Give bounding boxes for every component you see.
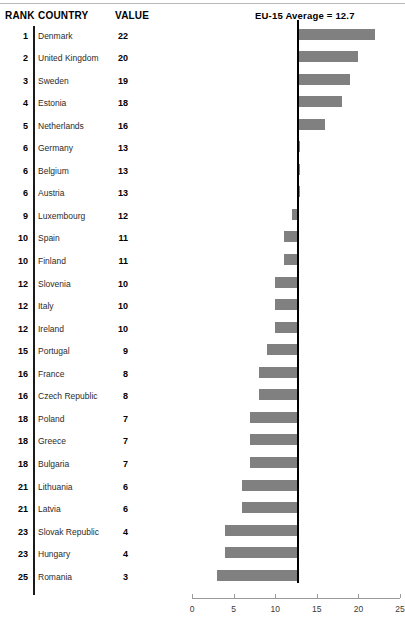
row-rank: 16 bbox=[0, 391, 28, 401]
x-axis-tick bbox=[358, 594, 359, 598]
x-axis-tick bbox=[317, 594, 318, 598]
row-country: Germany bbox=[38, 143, 73, 153]
row-country: France bbox=[38, 369, 64, 379]
row-value: 4 bbox=[112, 527, 128, 537]
table-row: 18Poland7 bbox=[0, 411, 180, 433]
row-value: 7 bbox=[112, 436, 128, 446]
x-axis-tick-label: 0 bbox=[180, 604, 204, 614]
column-header-rank: RANK bbox=[5, 10, 35, 21]
x-axis-tick bbox=[275, 594, 276, 598]
x-axis-tick-label: 25 bbox=[388, 604, 405, 614]
row-country: United Kingdom bbox=[38, 53, 98, 63]
table-row: 2United Kingdom20 bbox=[0, 50, 180, 72]
row-value: 10 bbox=[112, 324, 128, 334]
row-rank: 10 bbox=[0, 233, 28, 243]
row-rank: 5 bbox=[0, 121, 28, 131]
row-rank: 25 bbox=[0, 572, 28, 582]
row-value: 7 bbox=[112, 459, 128, 469]
row-country: Lithuania bbox=[38, 482, 73, 492]
row-value: 22 bbox=[112, 31, 128, 41]
chart-bar bbox=[275, 299, 297, 310]
row-rank: 10 bbox=[0, 256, 28, 266]
row-country: Poland bbox=[38, 414, 64, 424]
row-rank: 21 bbox=[0, 504, 28, 514]
table-row: 6Austria13 bbox=[0, 185, 180, 207]
chart-bar bbox=[250, 434, 297, 445]
table-row: 12Italy10 bbox=[0, 298, 180, 320]
row-value: 8 bbox=[112, 391, 128, 401]
row-rank: 16 bbox=[0, 369, 28, 379]
row-rank: 6 bbox=[0, 143, 28, 153]
row-country: Ireland bbox=[38, 324, 64, 334]
row-country: Bulgaria bbox=[38, 459, 69, 469]
chart-bar bbox=[298, 119, 325, 130]
chart-bar bbox=[267, 344, 298, 355]
chart-bar bbox=[250, 412, 297, 423]
row-country: Czech Republic bbox=[38, 391, 98, 401]
table-row: 16Czech Republic8 bbox=[0, 388, 180, 410]
chart-bar bbox=[284, 254, 298, 265]
row-country: Denmark bbox=[38, 31, 72, 41]
chart-bar bbox=[298, 29, 375, 40]
row-rank: 12 bbox=[0, 324, 28, 334]
row-country: Spain bbox=[38, 233, 60, 243]
row-value: 12 bbox=[112, 211, 128, 221]
row-value: 7 bbox=[112, 414, 128, 424]
row-rank: 6 bbox=[0, 166, 28, 176]
row-country: Austria bbox=[38, 188, 64, 198]
column-header-country: COUNTRY bbox=[38, 10, 88, 21]
row-value: 20 bbox=[112, 53, 128, 63]
row-rank: 18 bbox=[0, 459, 28, 469]
row-country: Luxembourg bbox=[38, 211, 85, 221]
row-country: Finland bbox=[38, 256, 66, 266]
table-row: 12Slovenia10 bbox=[0, 276, 180, 298]
chart-bar bbox=[298, 141, 300, 152]
chart-bar bbox=[298, 164, 300, 175]
row-value: 8 bbox=[112, 369, 128, 379]
row-country: Netherlands bbox=[38, 121, 84, 131]
row-rank: 4 bbox=[0, 98, 28, 108]
row-value: 6 bbox=[112, 482, 128, 492]
table-row: 4Estonia18 bbox=[0, 95, 180, 117]
table-row: 12Ireland10 bbox=[0, 321, 180, 343]
table-row: 5Netherlands16 bbox=[0, 118, 180, 140]
row-rank: 21 bbox=[0, 482, 28, 492]
row-rank: 3 bbox=[0, 76, 28, 86]
row-value: 6 bbox=[112, 504, 128, 514]
x-axis-tick-label: 15 bbox=[305, 604, 329, 614]
row-rank: 23 bbox=[0, 527, 28, 537]
table-row: 1Denmark22 bbox=[0, 28, 180, 50]
row-country: Hungary bbox=[38, 549, 70, 559]
x-axis-tick-label: 5 bbox=[222, 604, 246, 614]
row-country: Sweden bbox=[38, 76, 69, 86]
table-row: 23Hungary4 bbox=[0, 546, 180, 568]
row-country: Latvia bbox=[38, 504, 61, 514]
row-rank: 2 bbox=[0, 53, 28, 63]
row-value: 19 bbox=[112, 76, 128, 86]
table-row: 10Finland11 bbox=[0, 253, 180, 275]
column-header-value: VALUE bbox=[115, 10, 149, 21]
chart-bar bbox=[259, 367, 298, 378]
chart-bar bbox=[298, 51, 359, 62]
row-country: Greece bbox=[38, 436, 66, 446]
table-row: 15Portugal9 bbox=[0, 343, 180, 365]
chart-bar bbox=[284, 231, 298, 242]
row-rank: 15 bbox=[0, 346, 28, 356]
chart-page: RANK COUNTRY VALUE EU-15 Average = 12.7 … bbox=[0, 0, 405, 624]
table-row: 18Bulgaria7 bbox=[0, 456, 180, 478]
row-value: 11 bbox=[112, 256, 128, 266]
row-rank: 23 bbox=[0, 549, 28, 559]
table-row: 23Slovak Republic4 bbox=[0, 524, 180, 546]
row-country: Slovak Republic bbox=[38, 527, 99, 537]
row-rank: 18 bbox=[0, 436, 28, 446]
chart-bar bbox=[275, 277, 297, 288]
row-rank: 1 bbox=[0, 31, 28, 41]
row-value: 10 bbox=[112, 301, 128, 311]
chart-bar bbox=[298, 186, 300, 197]
top-divider bbox=[0, 3, 405, 4]
chart-bar bbox=[225, 525, 297, 536]
row-value: 13 bbox=[112, 143, 128, 153]
table-row: 18Greece7 bbox=[0, 433, 180, 455]
table-row: 3Sweden19 bbox=[0, 73, 180, 95]
chart-bar bbox=[298, 96, 342, 107]
